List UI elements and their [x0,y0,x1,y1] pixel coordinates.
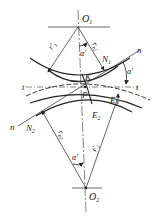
point-p [84,86,86,88]
radius-rb2 [42,111,86,188]
label-o2: O2 [89,191,99,203]
label-o1: O1 [82,13,92,25]
angle-arc-top [79,43,87,46]
gear1-pitch-circle [26,84,150,100]
point-o2 [85,187,87,189]
angle-arc-bottom [73,163,83,165]
line-of-action-n [18,50,140,126]
label-alpha-top: α' [80,49,86,58]
label-n1: N1 [101,54,111,65]
label-t-left: t [22,82,25,92]
label-e2: E2 [91,110,101,121]
label-p: P [81,90,88,100]
label-t-right: t [136,82,139,92]
gear-meshing-diagram: O1 O2 P K N1 N2 E1 E2 t t n n α' α' α' r… [0,0,160,218]
label-r1-prime: r'1 [46,40,58,52]
label-alpha-bottom: α' [72,153,78,162]
gear1-addendum-circle [48,66,118,82]
label-rb2: rb2 [55,129,68,141]
label-n-bottom: n [10,122,15,132]
label-alpha-right: α' [127,67,133,76]
radius-r2-prime [86,100,117,188]
label-rb1: rb1 [89,41,102,53]
label-e1: E1 [109,95,119,106]
label-n-top: n [137,45,142,55]
label-k: K [84,72,92,82]
diagram-svg: O1 O2 P K N1 N2 E1 E2 t t n n α' α' α' r… [0,0,160,218]
label-n2: N2 [25,123,35,134]
label-r2-prime: r'2 [89,142,101,153]
